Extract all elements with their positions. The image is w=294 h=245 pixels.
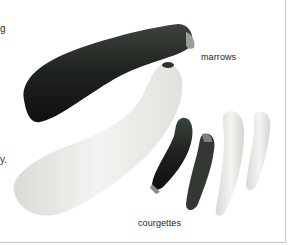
- pale-courgette-1: [216, 111, 244, 216]
- pale-courgette-2: [246, 112, 270, 191]
- document-page: g y.: [0, 0, 294, 245]
- courgettes-label: courgettes: [138, 218, 181, 228]
- marrows-label: marrows: [201, 52, 236, 62]
- figure-border-bottom: [0, 242, 286, 243]
- vegetable-photo: [0, 0, 294, 245]
- figure-border-right: [285, 0, 286, 243]
